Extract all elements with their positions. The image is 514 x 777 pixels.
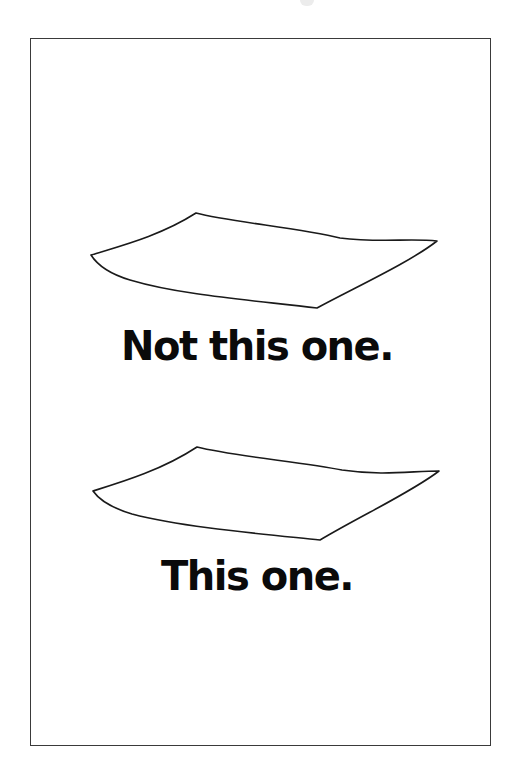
caption-this-one: This one. — [0, 553, 514, 599]
sheet-sketches — [0, 0, 514, 777]
sheet-top-icon — [91, 213, 437, 308]
sheet-bottom-icon — [93, 447, 439, 540]
caption-not-this-one: Not this one. — [0, 323, 514, 369]
